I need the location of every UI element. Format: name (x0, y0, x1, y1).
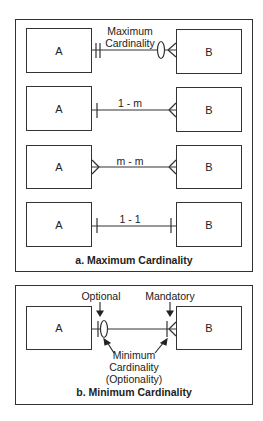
entity-label: A (55, 103, 62, 115)
entity-a-row4: A (26, 202, 92, 247)
entity-b-row1: B (176, 29, 242, 74)
entity-label: A (55, 322, 62, 334)
mandatory-label: Mandatory (140, 290, 200, 302)
annotation-minimum: Minimum (104, 349, 164, 361)
row1-label-line1: Maximum (100, 25, 160, 37)
annotation-cardinality: Cardinality (104, 361, 164, 373)
entity-b-min: B (176, 306, 242, 350)
optional-label: Optional (76, 290, 126, 302)
entity-label: A (55, 219, 62, 231)
entity-b-row3: B (176, 145, 242, 189)
annotation-optionality: (Optionality) (99, 373, 169, 385)
entity-a-min: A (26, 306, 92, 350)
entity-a-row2: A (26, 86, 92, 131)
row4-label: 1 - 1 (100, 213, 160, 225)
row1-label-line2: Cardinality (100, 37, 160, 49)
entity-a-row1: A (26, 28, 92, 73)
entity-a-row3: A (26, 145, 92, 189)
entity-label: B (205, 322, 212, 334)
entity-label: A (55, 161, 62, 173)
caption-maximum-cardinality: a. Maximum Cardinality (15, 254, 253, 266)
entity-label: B (205, 161, 212, 173)
row3-label: m - m (100, 155, 160, 167)
entity-b-row2: B (176, 87, 242, 132)
row2-label: 1 - m (100, 97, 160, 109)
entity-label: B (205, 219, 212, 231)
entity-b-row4: B (176, 202, 242, 247)
entity-label: B (205, 46, 212, 58)
entity-label: B (205, 104, 212, 116)
caption-minimum-cardinality: b. Minimum Cardinality (15, 386, 253, 398)
entity-label: A (55, 45, 62, 57)
